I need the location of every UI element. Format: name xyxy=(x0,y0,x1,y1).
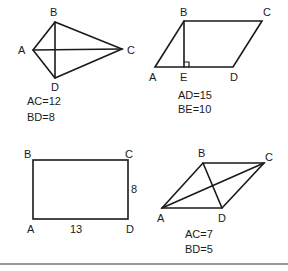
rhombus-label-b: B xyxy=(198,147,205,159)
rectangle-label-a: A xyxy=(27,223,35,235)
kite-diagonal-ac xyxy=(33,49,122,50)
rhombus-figure: B C A D AC=7 BD=5 xyxy=(157,147,273,255)
kite-label-c: C xyxy=(127,44,135,56)
kite-given-ac: AC=12 xyxy=(27,95,61,107)
rhombus-label-c: C xyxy=(265,151,273,163)
parallelogram-label-e: E xyxy=(180,71,187,83)
kite-given-bd: BD=8 xyxy=(27,111,55,123)
rhombus-diagonal-bd xyxy=(203,163,222,208)
parallelogram-given-ad: AD=15 xyxy=(178,89,212,101)
parallelogram-label-d: D xyxy=(230,71,238,83)
rhombus-given-bd: BD=5 xyxy=(185,243,213,255)
parallelogram-figure: B C A E D AD=15 BE=10 xyxy=(149,6,271,115)
parallelogram-label-b: B xyxy=(180,6,187,18)
rectangle-figure: B C A D 8 13 xyxy=(24,148,137,235)
rhombus-label-d: D xyxy=(218,212,226,224)
rectangle-height-label: 8 xyxy=(131,183,137,195)
parallelogram-outline xyxy=(155,21,262,67)
rectangle-label-c: C xyxy=(125,148,133,160)
kite-label-d: D xyxy=(51,81,59,93)
parallelogram-label-a: A xyxy=(149,71,157,83)
rhombus-label-a: A xyxy=(157,212,165,224)
rhombus-given-ac: AC=7 xyxy=(185,228,213,240)
kite-figure: B A C D AC=12 BD=8 xyxy=(18,6,135,123)
kite-label-b: B xyxy=(50,6,57,18)
rectangle-label-b: B xyxy=(24,148,31,160)
diagram-canvas: B A C D AC=12 BD=8 B C A E D AD=15 BE=10… xyxy=(0,0,288,271)
rectangle-width-label: 13 xyxy=(70,223,82,235)
kite-label-a: A xyxy=(18,44,26,56)
parallelogram-given-be: BE=10 xyxy=(178,103,211,115)
rectangle-outline xyxy=(33,160,128,219)
parallelogram-label-c: C xyxy=(263,6,271,18)
rectangle-label-d: D xyxy=(126,223,134,235)
